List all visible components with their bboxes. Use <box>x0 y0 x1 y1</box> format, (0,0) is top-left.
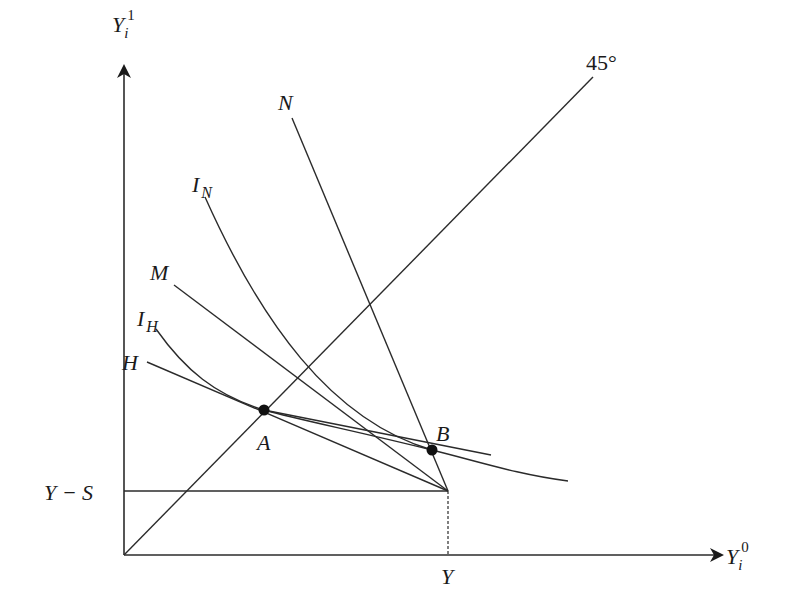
indifference-curve-ih-label: IH <box>137 308 158 330</box>
point-a <box>259 405 270 416</box>
point-a-label: A <box>257 432 270 454</box>
point-b <box>427 445 438 456</box>
y-tick-label: Y <box>441 566 453 588</box>
line-m-label: M <box>150 262 168 284</box>
line-n-label: N <box>278 92 293 114</box>
y-axis-label: Y1i <box>112 14 136 36</box>
point-b-label: B <box>436 423 449 445</box>
diagram-svg <box>0 0 796 613</box>
y-minus-s-label: Y − S <box>44 482 93 504</box>
diagram-canvas: Y1i Y0i 45° N IN M IH H A B Y − S Y <box>0 0 796 613</box>
line-h-label: H <box>122 352 138 374</box>
x-axis-label: Y0i <box>726 546 750 568</box>
45-degree-label: 45° <box>586 52 617 74</box>
indifference-curve-in-label: IN <box>192 174 212 196</box>
line-ab <box>264 410 491 455</box>
indifference-curve-ih <box>156 329 432 450</box>
45-degree-line <box>124 77 593 555</box>
